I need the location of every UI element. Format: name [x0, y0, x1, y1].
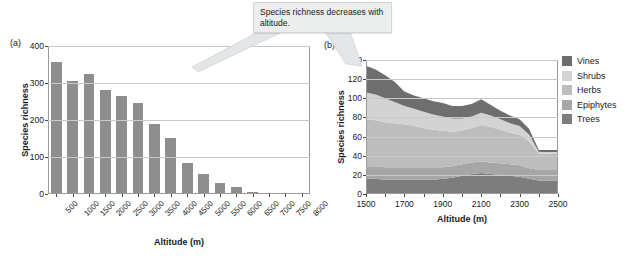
- x-tick-mark: [220, 194, 221, 197]
- x-tick-mark: [204, 194, 205, 197]
- legend-label: Epiphytes: [577, 100, 617, 110]
- x-tick-mark: [269, 194, 270, 197]
- x-tick-label: 1700: [386, 199, 422, 209]
- x-tick-mark: [462, 194, 463, 197]
- gridline: [48, 120, 310, 121]
- legend-label: Shrubs: [577, 71, 606, 81]
- x-tick-label: 1000: [82, 199, 101, 218]
- bar: [133, 103, 144, 194]
- legend-item: Epiphytes: [562, 98, 640, 113]
- bar: [215, 183, 226, 194]
- x-tick-mark: [154, 194, 155, 197]
- x-tick-label: 2100: [463, 199, 499, 209]
- x-tick-mark: [366, 194, 367, 197]
- x-tick-mark: [539, 194, 540, 197]
- y-tick-label: 100: [334, 93, 362, 103]
- x-tick-label: 2300: [502, 199, 538, 209]
- bar: [231, 187, 242, 194]
- y-tick-label: 40: [334, 151, 362, 161]
- y-tick-label: 140: [334, 55, 362, 65]
- chart-panel-a: (a) Species richness 0100200300400 50010…: [8, 36, 314, 256]
- legend-swatch-icon: [562, 71, 572, 81]
- bar: [51, 62, 62, 194]
- chart-panel-b: (b) Species richness 020406080100120140 …: [322, 36, 640, 256]
- x-tick-label: 500: [64, 199, 80, 215]
- x-tick-label: 1500: [98, 199, 117, 218]
- legend-swatch-icon: [562, 114, 572, 124]
- x-tick-mark: [56, 194, 57, 197]
- y-tick-label: 80: [334, 112, 362, 122]
- x-tick-mark: [122, 194, 123, 197]
- legend-label: Trees: [577, 114, 600, 124]
- y-tick-mark: [45, 194, 48, 195]
- x-tick-mark: [520, 194, 521, 197]
- panel-b-x-axis-title: Altitude (m): [366, 214, 558, 224]
- x-tick-mark: [105, 194, 106, 197]
- figure-species-richness-vs-altitude: (a) Species richness 0100200300400 50010…: [0, 0, 640, 260]
- y-tick-label: 300: [16, 78, 44, 88]
- x-tick-mark: [558, 194, 559, 197]
- x-tick-label: 3000: [147, 199, 166, 218]
- legend-label: Herbs: [577, 85, 601, 95]
- legend-item: Trees: [562, 112, 640, 127]
- gridline: [48, 157, 310, 158]
- y-tick-mark: [363, 137, 366, 138]
- x-tick-mark: [285, 194, 286, 197]
- bar: [165, 138, 176, 194]
- x-tick-label: 4000: [180, 199, 199, 218]
- y-tick-label: 400: [16, 41, 44, 51]
- x-tick-mark: [481, 194, 482, 197]
- bar: [198, 174, 209, 194]
- gridline: [366, 137, 558, 138]
- y-tick-mark: [363, 60, 366, 61]
- legend-item: Shrubs: [562, 69, 640, 84]
- x-tick-mark: [236, 194, 237, 197]
- y-tick-label: 200: [16, 115, 44, 125]
- x-tick-mark: [253, 194, 254, 197]
- legend-swatch-icon: [562, 100, 572, 110]
- x-tick-label: 2500: [131, 199, 150, 218]
- x-tick-label: 7500: [295, 199, 314, 218]
- y-tick-mark: [45, 83, 48, 84]
- y-tick-mark: [363, 79, 366, 80]
- legend-swatch-icon: [562, 85, 572, 95]
- y-tick-mark: [363, 98, 366, 99]
- panel-b-legend: VinesShrubsHerbsEpiphytesTrees: [562, 54, 640, 127]
- y-tick-mark: [45, 46, 48, 47]
- bar: [182, 163, 193, 194]
- x-tick-label: 1500: [348, 199, 384, 209]
- y-tick-mark: [45, 120, 48, 121]
- x-tick-mark: [187, 194, 188, 197]
- y-tick-mark: [363, 156, 366, 157]
- x-tick-mark: [302, 194, 303, 197]
- x-tick-label: 6500: [262, 199, 281, 218]
- x-tick-label: 7000: [278, 199, 297, 218]
- x-tick-mark: [500, 194, 501, 197]
- gridline: [366, 98, 558, 99]
- x-tick-mark: [385, 194, 386, 197]
- x-tick-label: 2500: [540, 199, 576, 209]
- x-tick-mark: [424, 194, 425, 197]
- bar: [100, 90, 111, 194]
- legend-label: Vines: [577, 56, 599, 66]
- x-tick-mark: [89, 194, 90, 197]
- legend-swatch-icon: [562, 56, 572, 66]
- gridline: [366, 156, 558, 157]
- y-tick-label: 60: [334, 132, 362, 142]
- gridline: [48, 83, 310, 84]
- x-tick-mark: [404, 194, 405, 197]
- panel-b-label: (b): [324, 40, 335, 50]
- panel-a-plot-area: [48, 46, 310, 194]
- y-tick-mark: [363, 175, 366, 176]
- x-tick-mark: [73, 194, 74, 197]
- y-tick-label: 0: [16, 189, 44, 199]
- y-tick-label: 120: [334, 74, 362, 84]
- x-tick-label: 2000: [115, 199, 134, 218]
- x-tick-label: 5500: [229, 199, 248, 218]
- bar: [67, 81, 78, 194]
- x-tick-label: 3500: [164, 199, 183, 218]
- panel-a-x-axis-title: Altitude (m): [48, 237, 310, 247]
- panel-b-plot-area: [366, 60, 558, 194]
- callout-annotation: Species richness decreases with altitude…: [253, 2, 392, 33]
- x-tick-label: 5000: [213, 199, 232, 218]
